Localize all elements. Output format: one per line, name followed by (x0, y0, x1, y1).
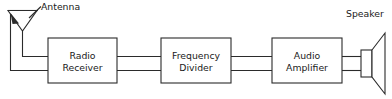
speaker-label: Speaker (346, 8, 384, 19)
diagram-canvas: Radio Receiver Frequency Divider Audio A… (0, 0, 392, 99)
block-diagram: Radio Receiver Frequency Divider Audio A… (0, 0, 392, 99)
audio-amplifier-label-line2: Amplifier (286, 62, 328, 73)
antenna-symbol (8, 7, 41, 32)
antenna-wire-upper (23, 31, 49, 57)
speaker-cone (372, 33, 385, 94)
speaker-symbol (361, 33, 385, 94)
wire-receiver-to-divider (117, 57, 161, 71)
radio-receiver-label-line2: Receiver (62, 62, 102, 73)
block-frequency-divider[interactable]: Frequency Divider (161, 38, 231, 83)
frequency-divider-label-line2: Divider (179, 62, 212, 73)
wire-amplifier-to-speaker (342, 57, 361, 71)
antenna-label: Antenna (41, 1, 80, 12)
radio-receiver-label-line1: Radio (69, 50, 95, 61)
block-audio-amplifier[interactable]: Audio Amplifier (272, 38, 342, 83)
audio-amplifier-label-line1: Audio (294, 50, 321, 61)
wire-divider-to-amplifier (231, 57, 272, 71)
speaker-body (361, 50, 372, 77)
frequency-divider-label-line1: Frequency (172, 50, 221, 61)
block-radio-receiver[interactable]: Radio Receiver (48, 38, 117, 83)
